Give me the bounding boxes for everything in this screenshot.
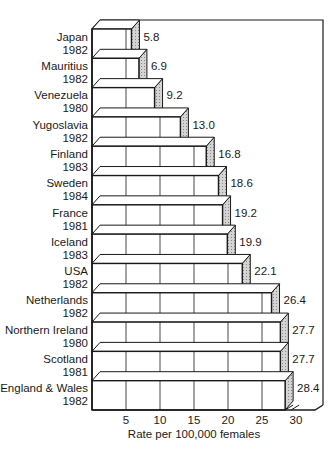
x-tick-label: 5 [111, 414, 141, 426]
x-tick-label: 20 [213, 414, 243, 426]
value-label: 13.0 [192, 119, 214, 132]
category-label: England & Wales1982 [0, 382, 88, 408]
x-tick-label: 10 [145, 414, 175, 426]
x-tick-label: 15 [179, 414, 209, 426]
value-label: 22.1 [254, 265, 276, 278]
category-label: Netherlands1982 [0, 294, 88, 320]
category-label: Venezuela1980 [0, 89, 88, 115]
category-label: Northern Ireland1980 [0, 324, 88, 350]
value-label: 18.6 [230, 177, 252, 190]
value-label: 27.7 [292, 353, 314, 366]
x-axis-label: Rate per 100,000 females [92, 428, 296, 440]
category-label: Finland1983 [0, 148, 88, 174]
category-label: France1981 [0, 207, 88, 233]
x-tick-label: 30 [281, 414, 311, 426]
value-label: 19.2 [235, 207, 257, 220]
x-tick-label: 25 [247, 414, 277, 426]
category-label: USA1982 [0, 265, 88, 291]
category-label: Mauritius1982 [0, 60, 88, 86]
category-label: Scotland1981 [0, 353, 88, 379]
value-label: 28.4 [297, 382, 319, 395]
value-label: 5.8 [143, 31, 159, 44]
value-label: 19.9 [239, 236, 261, 249]
value-label: 27.7 [292, 324, 314, 337]
value-label: 16.8 [218, 148, 240, 161]
category-label: Japan1982 [0, 31, 88, 57]
category-label: Iceland1983 [0, 236, 88, 262]
value-label: 9.2 [167, 89, 183, 102]
value-label: 26.4 [284, 294, 306, 307]
category-label: Yugoslavia1982 [0, 119, 88, 145]
value-label: 6.9 [151, 60, 167, 73]
bar [92, 372, 293, 410]
category-label: Sweden1984 [0, 177, 88, 203]
